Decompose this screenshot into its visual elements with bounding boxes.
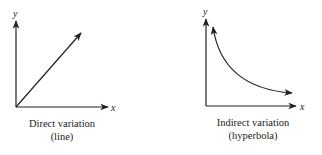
y-axis-label: y [12, 8, 18, 19]
caption-title: Direct variation [29, 118, 96, 129]
caption-title: Indirect variation [217, 117, 290, 128]
hyperbola-curve [213, 27, 292, 93]
direct-variation-diagram: y x Direct variation (line) [12, 8, 116, 143]
caption-subtitle: (hyperbola) [229, 130, 278, 142]
indirect-variation-diagram: y x Indirect variation (hyperbola) [202, 6, 305, 142]
y-axis-label: y [202, 6, 208, 17]
x-axis-label: x [110, 102, 116, 113]
direct-variation-line [16, 33, 81, 107]
x-axis-label: x [299, 101, 305, 112]
variation-diagrams: y x Direct variation (line) y x Indirect… [0, 0, 322, 155]
caption-subtitle: (line) [51, 131, 74, 143]
